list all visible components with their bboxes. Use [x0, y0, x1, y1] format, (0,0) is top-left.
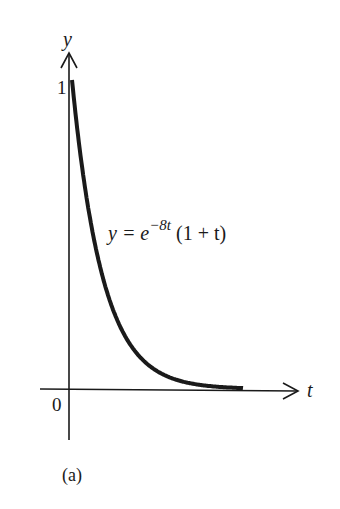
- equation-lhs: y = e: [108, 222, 149, 244]
- y-axis-label: y: [63, 28, 72, 51]
- y-tick-label: 1: [57, 77, 67, 99]
- curve-equation: y = e−8t (1 + t): [108, 219, 226, 245]
- plot-canvas: [0, 0, 340, 509]
- figure-caption: (a): [62, 465, 82, 486]
- equation-rhs: (1 + t): [171, 222, 226, 244]
- x-axis: [40, 389, 297, 391]
- equation-exponent: −8t: [149, 217, 171, 233]
- origin-label: 0: [52, 394, 62, 416]
- t-axis-label: t: [307, 379, 313, 402]
